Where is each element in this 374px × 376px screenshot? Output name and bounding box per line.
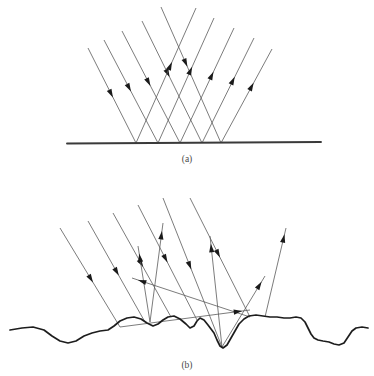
flat-mirror-surface	[67, 142, 321, 144]
reflected-ray-arrow-icon	[208, 72, 214, 81]
reflected-ray-arrow-icon	[247, 83, 253, 92]
scattered-ray	[132, 278, 250, 317]
reflected-ray	[202, 38, 254, 143]
panel-a-group: (a)	[67, 7, 321, 165]
incident-ray-arrow-icon	[214, 249, 220, 258]
incident-ray	[163, 198, 222, 347]
panel-a-incident-rays	[88, 7, 221, 143]
incident-ray-arrow-icon	[182, 58, 188, 67]
panel-b-caption: (b)	[181, 360, 192, 371]
reflected-ray	[180, 28, 234, 143]
scattered-ray-arrow-icon	[138, 254, 143, 263]
panel-a-caption: (a)	[182, 154, 193, 165]
reflected-ray-arrow-icon	[186, 67, 192, 76]
incident-ray	[142, 21, 202, 143]
rough-surface-profile	[10, 315, 368, 348]
incident-ray-arrow-icon	[107, 89, 113, 98]
incident-ray	[122, 31, 180, 143]
panel-b-scattered-rays	[120, 223, 286, 347]
reflected-ray	[158, 18, 214, 143]
reflected-ray	[221, 49, 272, 143]
panel-b-group: (b)	[10, 198, 368, 371]
incident-ray-arrow-icon	[112, 267, 118, 276]
scattered-ray-arrow-icon	[280, 234, 285, 243]
incident-ray-arrow-icon	[186, 261, 192, 270]
panel-a-reflected-rays	[136, 8, 272, 143]
incident-ray-arrow-icon	[161, 254, 167, 263]
reflection-diagram: (a) (b)	[0, 0, 374, 376]
incident-ray-arrow-icon	[144, 77, 150, 86]
reflection-figure: (a) (b)	[0, 0, 374, 376]
scattered-ray-arrow-icon	[158, 231, 163, 240]
reflected-ray-arrow-icon	[229, 77, 235, 86]
incident-ray-arrow-icon	[86, 274, 93, 283]
scattered-ray-arrow-icon	[255, 282, 262, 291]
incident-ray-arrow-icon	[125, 83, 131, 92]
scattered-ray-arrow-icon	[138, 280, 147, 285]
